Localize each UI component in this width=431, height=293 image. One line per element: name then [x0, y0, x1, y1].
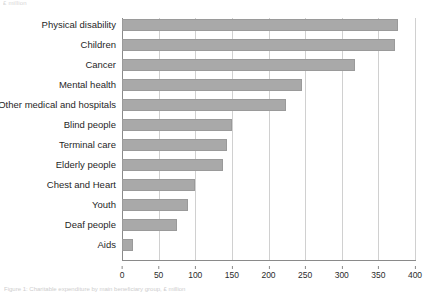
- category-label: Deaf people: [65, 218, 116, 232]
- bar: [122, 99, 286, 111]
- x-tick-mark: [378, 266, 379, 269]
- bar: [122, 139, 227, 151]
- x-axis-tick-labels: 050100150200250300350400: [122, 270, 415, 284]
- category-label: Aids: [98, 238, 116, 252]
- bar-row: Aids: [122, 238, 415, 258]
- bar-row: Mental health: [122, 78, 415, 98]
- bar: [122, 39, 395, 51]
- bar: [122, 59, 355, 71]
- bar: [122, 239, 133, 251]
- x-tick-mark: [195, 266, 196, 269]
- bar: [122, 19, 398, 31]
- bar: [122, 219, 177, 231]
- bar-row: Chest and Heart: [122, 178, 415, 198]
- x-tick-label: 300: [335, 270, 349, 281]
- x-tick-label: 250: [298, 270, 312, 281]
- x-tick-mark: [122, 266, 123, 269]
- bar-row: Cancer: [122, 58, 415, 78]
- x-tick-mark: [269, 266, 270, 269]
- bar-row: Blind people: [122, 118, 415, 138]
- category-label: Physical disability: [42, 18, 116, 32]
- x-axis-line: [122, 260, 416, 261]
- bar-chart: Physical disabilityChildrenCancerMental …: [0, 12, 431, 274]
- x-tick-label: 150: [225, 270, 239, 281]
- x-tick-mark: [159, 266, 160, 269]
- figure-caption: Figure 1: Charitable expenditure by main…: [4, 285, 428, 293]
- bar-row: Terminal care: [122, 138, 415, 158]
- header-unit-fragment: £ million: [3, 0, 27, 8]
- category-label: Youth: [92, 198, 116, 212]
- x-tick-mark: [232, 266, 233, 269]
- bar-row: Deaf people: [122, 218, 415, 238]
- category-label: Chest and Heart: [47, 178, 116, 192]
- category-label: Mental health: [59, 78, 116, 92]
- x-tick-label: 100: [188, 270, 202, 281]
- bar-row: Youth: [122, 198, 415, 218]
- x-tick-label: 350: [371, 270, 385, 281]
- x-tick-mark: [415, 266, 416, 269]
- x-tick-label: 400: [408, 270, 422, 281]
- x-tick-label: 50: [154, 270, 163, 281]
- x-tick-mark: [342, 266, 343, 269]
- bar: [122, 159, 223, 171]
- gridline: [415, 18, 416, 260]
- x-tick-mark: [305, 266, 306, 269]
- plot-area: Physical disabilityChildrenCancerMental …: [122, 18, 415, 260]
- bar-row: Other medical and hospitals: [122, 98, 415, 118]
- bar: [122, 199, 188, 211]
- bar-row: Physical disability: [122, 18, 415, 38]
- category-label: Terminal care: [59, 138, 116, 152]
- category-label: Elderly people: [56, 158, 116, 172]
- x-tick-label: 200: [261, 270, 275, 281]
- category-label: Other medical and hospitals: [0, 98, 116, 112]
- bar-row: Elderly people: [122, 158, 415, 178]
- bar: [122, 179, 195, 191]
- category-label: Cancer: [85, 58, 116, 72]
- bar-row: Children: [122, 38, 415, 58]
- x-tick-label: 0: [120, 270, 125, 281]
- bar: [122, 79, 302, 91]
- bar: [122, 119, 232, 131]
- category-label: Blind people: [64, 118, 116, 132]
- category-label: Children: [81, 38, 116, 52]
